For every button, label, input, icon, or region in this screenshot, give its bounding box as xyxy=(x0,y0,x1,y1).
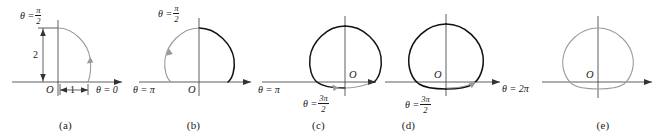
panel-caption-d: (d) xyxy=(331,119,486,131)
panel-caption-a: (a) xyxy=(0,119,131,131)
panel-caption-b: (b) xyxy=(131,119,256,131)
origin-label-d: O xyxy=(434,70,442,81)
measure-value-2-a: 2 xyxy=(33,50,38,60)
panel-caption-e: (e) xyxy=(536,119,670,131)
theta-label-top-a: θ =π2 xyxy=(20,6,42,25)
theta-label-top-b: θ =π2 xyxy=(158,4,180,23)
theta-label-left-b: θ = π xyxy=(133,85,155,95)
theta-label-bottom-c: θ =3π2 xyxy=(303,94,330,113)
origin-label-a: O xyxy=(46,85,54,96)
curve-untraced-c xyxy=(333,84,369,91)
panel-b: θ =π2 θ = π O (b) xyxy=(131,0,256,139)
panel-a: θ =π2 θ = 0 O 2 1 (a) xyxy=(0,0,131,139)
measure-2-a xyxy=(38,28,58,82)
cardioid-tracing-figure: θ =π2 θ = 0 O 2 1 (a) xyxy=(0,0,670,139)
curve-traced-b xyxy=(199,28,234,82)
curve-untraced-b xyxy=(165,28,199,82)
panel-d: θ =3π2 θ = 2π O (d) xyxy=(381,0,536,139)
theta-label-bottom-d: θ =3π2 xyxy=(405,95,432,114)
origin-label-e: O xyxy=(586,70,594,81)
x-axis-d xyxy=(385,79,500,85)
theta-label-right-a: θ = 0 xyxy=(96,85,118,95)
curve-arrow-d xyxy=(447,82,476,88)
origin-label-b: O xyxy=(188,85,196,96)
curve-traced-c xyxy=(310,26,382,88)
panel-e: O (e) xyxy=(536,0,670,139)
theta-label-left-c: θ = π xyxy=(258,85,280,95)
origin-label-c: O xyxy=(349,70,357,81)
theta-label-right-d: θ = 2π xyxy=(502,84,529,94)
curve-traced-a xyxy=(58,28,93,82)
x-axis-e xyxy=(542,79,652,85)
measure-value-1-a: 1 xyxy=(70,85,75,95)
